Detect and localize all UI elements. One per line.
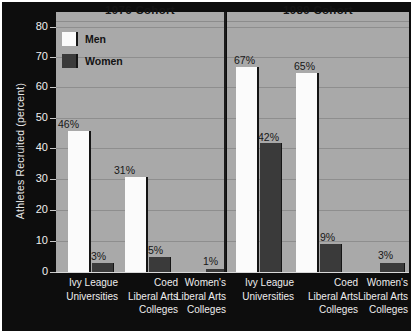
value-label-women-womens-1989: 3%: [378, 250, 393, 261]
y-tick-30: 30: [14, 173, 48, 184]
gridline-80: [227, 27, 409, 28]
y-tick-80: 80: [14, 21, 48, 32]
panel-divider: [224, 12, 226, 272]
bar-men-ivy-1976: [68, 131, 91, 272]
x-label-line3: Colleges: [160, 303, 226, 317]
legend-label-women: Women: [85, 55, 123, 68]
y-tick-20: 20: [14, 204, 48, 215]
y-tick-60: 60: [14, 81, 48, 92]
bar-women-ivy-1989: [260, 143, 282, 272]
legend-label-men: Men: [85, 33, 106, 46]
y-tick-70: 70: [14, 51, 48, 62]
bar-women-ivy-1976: [92, 263, 114, 272]
x-label-womens-1989: Women's Liberal Arts Colleges: [342, 276, 408, 317]
value-label-men-coed-1989: 65%: [294, 61, 315, 72]
bar-women-coed-1989: [320, 244, 342, 272]
value-label-women-coed-1989: 9%: [320, 232, 335, 243]
x-label-line2: Universities: [228, 290, 294, 304]
bar-men-ivy-1989: [236, 67, 259, 272]
gridline-60: [56, 87, 224, 88]
chart-figure: Athletes Recruited (percent) 80 70 60 50…: [0, 0, 413, 336]
x-label-line1: Ivy League: [228, 276, 294, 290]
value-label-men-coed-1976: 31%: [114, 165, 135, 176]
x-label-line1: Women's: [342, 276, 408, 290]
x-label-line2: Liberal Arts: [342, 290, 408, 304]
x-label-line2: Universities: [52, 290, 118, 304]
y-tick-0: 0: [14, 266, 48, 277]
gridline-50: [56, 118, 224, 119]
bar-men-coed-1989: [296, 73, 319, 272]
x-label-womens-1976: Women's Liberal Arts Colleges: [160, 276, 226, 317]
panel-header-rule-left: [56, 21, 224, 22]
x-label-line2: Liberal Arts: [160, 290, 226, 304]
gridline-70: [56, 57, 224, 58]
legend-swatch-women-icon: [62, 54, 78, 68]
value-label-men-ivy-1976: 46%: [58, 119, 79, 130]
value-label-women-womens-1976: 1%: [203, 256, 218, 267]
bar-women-womens-1989: [380, 263, 405, 272]
y-tick-50: 50: [14, 112, 48, 123]
value-label-women-ivy-1989: 42%: [258, 132, 279, 143]
panel-header-rule-right: [227, 21, 409, 22]
panel-title-1989: 1989 Cohort: [227, 0, 409, 21]
x-label-line3: Colleges: [342, 303, 408, 317]
y-tick-40: 40: [14, 142, 48, 153]
legend-swatch-men-icon: [62, 32, 78, 46]
gridline-80: [56, 27, 224, 28]
panel-title-1976: 1976 Cohort: [56, 0, 224, 21]
x-label-line1: Ivy League: [52, 276, 118, 290]
plot-panel-1976: [56, 12, 224, 272]
y-tick-10: 10: [14, 235, 48, 246]
x-label-line1: Women's: [160, 276, 226, 290]
value-label-women-coed-1976: 5%: [148, 245, 163, 256]
bar-women-coed-1976: [149, 257, 171, 272]
value-label-men-ivy-1989: 67%: [234, 55, 255, 66]
x-label-ivy-1976: Ivy League Universities: [52, 276, 118, 303]
bar-men-coed-1976: [125, 177, 148, 272]
x-axis-baseline: [56, 272, 409, 273]
x-label-ivy-1989: Ivy League Universities: [228, 276, 294, 303]
value-label-women-ivy-1976: 3%: [91, 251, 106, 262]
plot-panel-1989: [227, 12, 409, 272]
